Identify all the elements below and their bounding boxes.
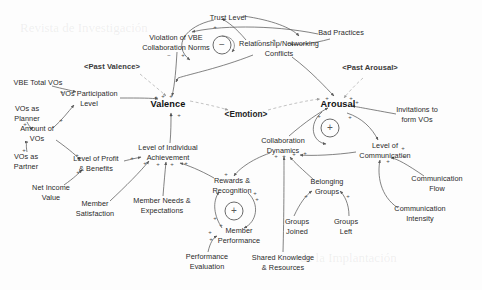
edge-sign: + [349,95,353,101]
edge-sign: + [130,155,134,161]
edge-sign: + [224,171,228,177]
edge-sign: + [59,117,63,123]
node-collaboration_dynamics[interactable]: Collaboration Dynamics [261,136,305,155]
node-invitations_form_vos[interactable]: Invitations to form VOs [396,105,438,124]
node-trust_level[interactable]: Trust Level [210,13,246,23]
edge-sign: + [209,236,213,242]
node-emotion[interactable]: <Emotion> [225,110,268,120]
edge-sign: + [184,160,188,166]
loop-marker-reinforcing-loop-arousal: + [321,119,340,138]
edge-sign: + [169,93,173,99]
node-arousal[interactable]: Arousal [321,100,356,110]
node-bad_practices[interactable]: Bad Practices [318,28,364,38]
edge-sign: + [76,169,80,175]
node-belonging_groups[interactable]: Belonging Groups [311,177,344,196]
edge-sign: + [303,150,307,156]
node-past_arousal[interactable]: <Past Arousal> [342,63,398,73]
edge-sign: + [348,114,352,120]
node-rewards_recognition[interactable]: Rewards & Recognition [212,176,251,195]
edge-sign: + [22,147,26,153]
edge-sign: + [143,160,147,166]
edge-sign: + [272,37,276,43]
node-groups_left[interactable]: Groups Left [334,217,358,236]
edge-sign: + [274,153,278,159]
edge-sign: − [257,37,261,43]
edge-sign: + [75,152,79,158]
emotion-arousal-link [268,99,320,110]
edge-sign: + [282,153,286,159]
edge-sign: + [317,113,321,119]
diagram-canvas: de la Implantación Revista de Investigac… [0,0,482,290]
edge-sign: + [292,151,296,157]
loop-marker-balancing-loop-conflicts: − [213,36,232,55]
edge-sign: + [161,93,165,99]
node-net_income_value[interactable]: Net Income Value [32,183,70,202]
edge-sign: + [386,158,390,164]
node-level_individual_achievement[interactable]: Level of Individual Achievement [138,143,197,162]
node-groups_joined[interactable]: Groups Joined [285,217,309,236]
edge-sign: + [213,24,217,30]
edge-sign: + [181,52,185,58]
edge-sign: + [219,222,223,228]
node-communication_flow[interactable]: Communication Flow [411,174,462,193]
node-vbe_total_vos[interactable]: VBE Total VOs [14,78,63,88]
node-vos_as_partner[interactable]: VOs as Partner [14,152,38,171]
node-member_satisfaction[interactable]: Member Satisfaction [76,199,114,218]
edge-sign: − [167,52,171,58]
node-valence[interactable]: Valence [151,100,186,110]
loop-marker-reinforcing-loop-rewards: + [225,202,244,221]
edge-sign: + [355,99,359,105]
edge-sign: + [304,193,308,199]
edge-sign: + [255,196,259,202]
node-member_performance[interactable]: Member Performance [218,226,260,245]
edge-sign: + [402,153,406,159]
node-shared_knowledge[interactable]: Shared Knowledge & Resources [252,253,314,272]
edge-sign: + [177,112,181,118]
past-arousal-link [344,78,363,98]
edge-sign: + [170,161,174,167]
node-past_valence[interactable]: <Past Valence> [84,62,140,72]
edge-sign: + [60,89,64,95]
edge-sign: + [156,161,160,167]
edge-sign: + [208,229,212,235]
edge-sign: + [154,94,158,100]
edge-sign: + [325,95,329,101]
node-relationship_conflicts[interactable]: Relationship/Networking Conflicts [239,39,319,58]
node-member_needs[interactable]: Member Needs & Expectations [133,196,190,215]
edge-sign: + [169,112,173,118]
node-vos_as_planner[interactable]: VOs as Planner [14,104,40,123]
node-communication_intensity[interactable]: Communication Intensity [394,204,445,223]
node-violation_norms[interactable]: Violation of VBE Collaboration Norms [142,33,209,52]
valence-emotion-link [190,101,228,110]
edge-sign: + [346,193,350,199]
edge-sign: + [23,121,27,127]
edge-sign: + [213,215,217,221]
node-performance_evaluation[interactable]: Performance Evaluation [186,252,228,271]
node-vos_participation[interactable]: VOs Participation Level [60,89,117,108]
edge-sign: + [401,145,405,151]
